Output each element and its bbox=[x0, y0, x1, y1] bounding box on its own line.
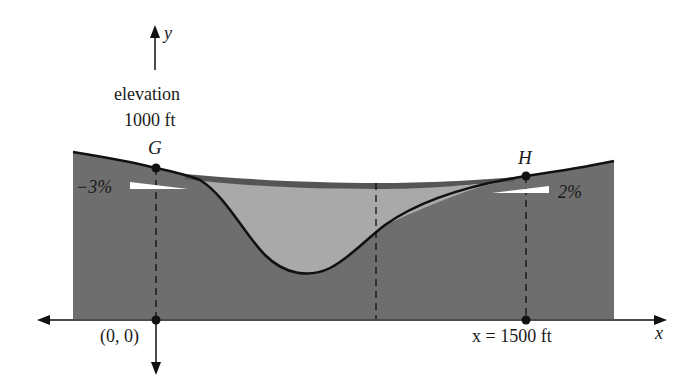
y-axis-up-arrow-icon bbox=[150, 25, 160, 38]
origin-label: (0, 0) bbox=[100, 327, 139, 345]
grade-left-label: −3% bbox=[76, 178, 112, 196]
x1500-marker bbox=[522, 316, 531, 325]
point-h-marker bbox=[522, 172, 531, 181]
x-axis-left-arrow-icon bbox=[37, 315, 50, 325]
x-axis-label: x bbox=[655, 324, 663, 342]
point-g-marker bbox=[152, 164, 161, 173]
elevation-value-label: 1000 ft bbox=[124, 111, 176, 129]
y-axis-label: y bbox=[164, 24, 172, 42]
y-axis-down-arrow-icon bbox=[151, 362, 161, 375]
x-end-label: x = 1500 ft bbox=[472, 327, 552, 345]
point-h-label: H bbox=[518, 148, 532, 167]
elevation-label: elevation bbox=[114, 85, 180, 103]
point-g-label: G bbox=[148, 138, 162, 157]
grade-right-label: 2% bbox=[558, 183, 582, 201]
origin-marker bbox=[152, 316, 161, 325]
